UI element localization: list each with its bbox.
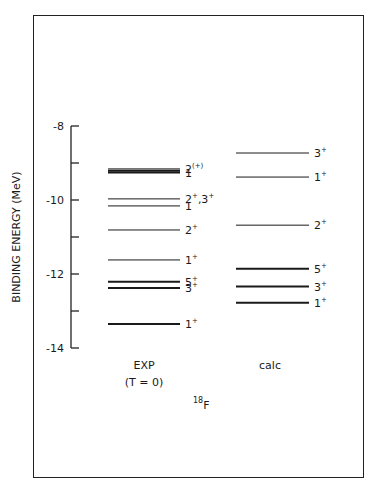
level-label: 1 [185, 167, 192, 180]
y-tick-label: -12 [46, 268, 64, 281]
column-title: EXP [133, 359, 154, 372]
level-label: 2+ [314, 218, 327, 232]
nucleus-label: 18F [193, 396, 210, 412]
level-label: 1+ [185, 317, 198, 331]
column-calc: 3+1+2+5+3+1+calc [236, 146, 327, 372]
y-tick-label: -8 [53, 120, 64, 133]
level-label: 3+ [314, 146, 327, 160]
level-label: 1+ [314, 170, 327, 184]
y-tick-label: -10 [46, 194, 64, 207]
level-label: 1+ [185, 253, 198, 267]
level-label: 3+ [185, 281, 198, 295]
level-label: 3+ [314, 280, 327, 294]
level-label: 2+ [185, 223, 198, 237]
column-subtitle: (T = 0) [125, 376, 164, 389]
y-tick-label: -14 [46, 342, 64, 355]
y-axis-label: BINDING ENERGY (MeV) [10, 171, 23, 302]
level-label: 1 [185, 200, 192, 213]
column-title: calc [259, 359, 281, 372]
level-label: 1+ [314, 296, 327, 310]
y-axis: -8-10-12-14 [46, 120, 79, 355]
column-exp: 2(+)12+,3+12+1+5+3+1+EXP(T = 0) [108, 162, 214, 389]
level-label: 5+ [314, 262, 327, 276]
energy-level-chart: -8-10-12-14BINDING ENERGY (MeV)2(+)12+,3… [0, 0, 379, 492]
